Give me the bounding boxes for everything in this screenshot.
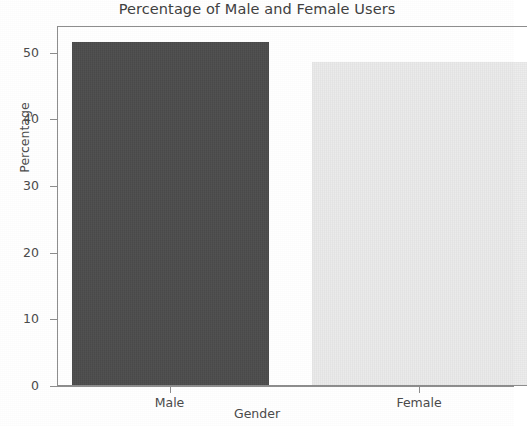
bar-male[interactable] xyxy=(72,42,269,385)
y-tick-label: 10 xyxy=(0,311,39,326)
top-spine xyxy=(57,26,514,27)
chart-title: Percentage of Male and Female Users xyxy=(0,1,514,17)
x-axis-spine xyxy=(57,386,514,387)
y-tick-label: 0 xyxy=(0,378,39,393)
plot-area xyxy=(57,26,527,386)
x-tick xyxy=(170,386,171,393)
x-axis-label: Gender xyxy=(0,406,514,421)
y-tick-label: 40 xyxy=(0,111,39,126)
y-tick-label: 50 xyxy=(0,45,39,60)
y-tick-label: 30 xyxy=(0,178,39,193)
y-axis-spine xyxy=(57,26,58,387)
y-tick xyxy=(50,319,57,320)
bar-female[interactable] xyxy=(312,62,527,385)
y-tick xyxy=(50,119,57,120)
x-tick xyxy=(419,386,420,393)
y-tick xyxy=(50,186,57,187)
bar-texture xyxy=(72,42,269,385)
y-tick xyxy=(50,53,57,54)
bar-texture xyxy=(312,62,527,385)
y-tick xyxy=(50,253,57,254)
y-tick-label: 20 xyxy=(0,245,39,260)
y-tick xyxy=(50,386,57,387)
